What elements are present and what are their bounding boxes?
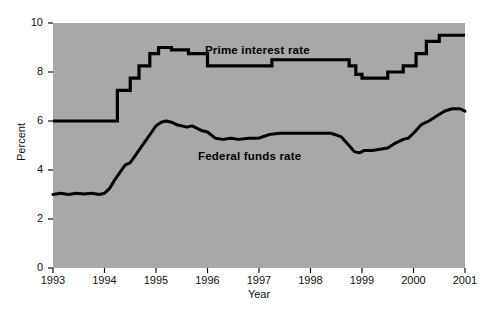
x-tick-label: 2001 — [442, 274, 488, 286]
x-tick-label: 1995 — [133, 274, 179, 286]
series-label-federal-funds-rate: Federal funds rate — [198, 150, 301, 162]
x-tick-label: 2000 — [391, 274, 437, 286]
series-label-prime-interest-rate: Prime interest rate — [205, 44, 310, 56]
y-axis-ticks — [48, 23, 53, 268]
x-tick-label: 1996 — [185, 274, 231, 286]
y-axis-title: Percent — [15, 112, 27, 172]
y-tick-label: 0 — [17, 261, 43, 273]
interest-rates-line-chart: 0246810 19931994199519961997199819992000… — [0, 0, 490, 310]
x-tick-label: 1999 — [339, 274, 385, 286]
x-tick-label: 1993 — [30, 274, 76, 286]
y-tick-label: 8 — [17, 65, 43, 77]
y-tick-label: 2 — [17, 212, 43, 224]
x-tick-label: 1994 — [82, 274, 128, 286]
x-axis-title: Year — [219, 288, 299, 300]
x-axis-ticks — [53, 268, 465, 273]
y-tick-label: 10 — [17, 16, 43, 28]
x-tick-label: 1997 — [236, 274, 282, 286]
x-tick-label: 1998 — [288, 274, 334, 286]
